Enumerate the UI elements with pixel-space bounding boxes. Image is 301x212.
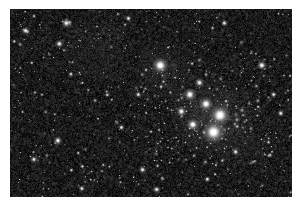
star-field-photograph — [10, 9, 292, 197]
screenshot-root — [0, 0, 301, 212]
star-field-canvas — [10, 9, 292, 197]
